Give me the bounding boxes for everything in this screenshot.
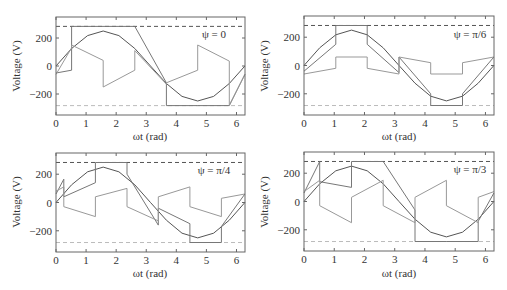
x-tick-label: 2 — [113, 254, 119, 266]
x-tick-label: 1 — [331, 117, 337, 129]
ylabel: Voltage (V) — [10, 40, 23, 92]
x-tick-label: 1 — [83, 117, 89, 129]
x-tick-label: 5 — [204, 254, 210, 266]
x-tick-label: 2 — [362, 253, 368, 265]
x-tick-label: 3 — [392, 253, 398, 265]
x-tick-label: 1 — [331, 253, 337, 265]
x-tick-label: 6 — [483, 117, 489, 129]
x-tick-label: 6 — [483, 253, 489, 265]
x-tick-label: 2 — [362, 117, 368, 129]
ylabel: Voltage (V) — [258, 176, 271, 228]
x-tick-label: 5 — [452, 117, 458, 129]
series-line — [56, 187, 245, 221]
series-line — [56, 31, 245, 101]
y-tick-label: 200 — [36, 168, 53, 180]
series-line — [304, 166, 494, 237]
figure: Voltage (V) ωt (rad) ψ = 0 01234562000−2… — [0, 0, 507, 290]
series-line — [304, 57, 494, 74]
y-tick-label: 0 — [295, 196, 301, 208]
x-tick-label: 4 — [422, 117, 428, 129]
x-tick-label: 6 — [234, 117, 240, 129]
x-tick-label: 0 — [53, 117, 59, 129]
y-tick-label: 200 — [284, 167, 301, 179]
y-tick-label: −200 — [277, 88, 300, 100]
xlabel: ωt (rad) — [382, 130, 417, 143]
panel-psi-pi-4: Voltage (V) ωt (rad) ψ = π/4 01234562000… — [10, 153, 245, 280]
x-tick-label: 4 — [174, 117, 180, 129]
xlabel: ωt (rad) — [382, 267, 417, 280]
x-tick-label: 0 — [301, 253, 307, 265]
y-tick-label: 200 — [36, 32, 53, 44]
panel-label: ψ = 0 — [202, 28, 227, 40]
x-tick-label: 2 — [113, 117, 119, 129]
x-tick-label: 4 — [174, 254, 180, 266]
panel-label: ψ = π/4 — [198, 164, 231, 176]
x-tick-label: 3 — [143, 117, 149, 129]
x-tick-label: 5 — [204, 117, 210, 129]
y-tick-label: −200 — [29, 88, 52, 100]
x-tick-label: 0 — [53, 254, 59, 266]
panel-psi-pi-6: Voltage (V) ωt (rad) ψ = π/6 01234562000… — [258, 16, 494, 143]
x-tick-label: 5 — [452, 253, 458, 265]
y-tick-label: 0 — [47, 197, 53, 209]
x-tick-label: 3 — [143, 254, 149, 266]
y-tick-label: 0 — [47, 60, 53, 72]
y-tick-label: −200 — [277, 224, 300, 236]
panel-psi-0: Voltage (V) ωt (rad) ψ = 0 01234562000−2… — [10, 17, 245, 143]
x-tick-label: 3 — [392, 117, 398, 129]
panel-psi-pi-3: Voltage (V) ωt (rad) ψ = π/3 01234562000… — [258, 152, 494, 280]
panel-label: ψ = π/3 — [454, 163, 487, 175]
ylabel: Voltage (V) — [10, 176, 23, 228]
xlabel: ωt (rad) — [133, 267, 168, 280]
series-line — [56, 167, 245, 238]
x-tick-label: 4 — [422, 253, 428, 265]
x-tick-label: 0 — [301, 117, 307, 129]
xlabel: ωt (rad) — [133, 130, 168, 143]
x-tick-label: 1 — [83, 254, 89, 266]
y-tick-label: 200 — [284, 31, 301, 43]
y-tick-label: −200 — [29, 225, 52, 237]
x-tick-label: 6 — [234, 254, 240, 266]
panel-label: ψ = π/6 — [454, 28, 487, 40]
y-tick-label: 0 — [295, 60, 301, 72]
ylabel: Voltage (V) — [258, 40, 271, 92]
